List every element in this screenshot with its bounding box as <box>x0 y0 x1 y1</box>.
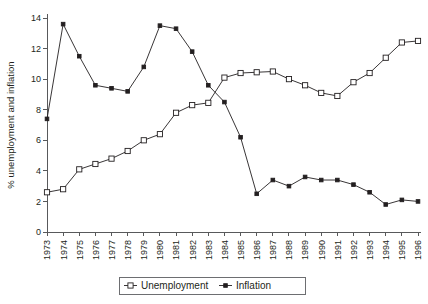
data-point <box>270 69 275 74</box>
data-point <box>319 178 323 182</box>
x-axis-tick-label: 1980 <box>155 240 165 260</box>
data-point <box>415 38 420 43</box>
data-point <box>207 83 211 87</box>
x-axis-tick-label: 1978 <box>123 240 133 260</box>
x-axis-tick-label: 1981 <box>171 240 181 260</box>
data-point <box>238 70 243 75</box>
data-point <box>351 80 356 85</box>
x-axis-tick-label: 1990 <box>317 240 327 260</box>
series-unemployment <box>44 38 420 195</box>
legend-marker-unemployment <box>128 283 133 288</box>
data-point <box>302 83 307 88</box>
x-axis-tick-label: 1991 <box>333 240 343 260</box>
data-point <box>222 75 227 80</box>
data-point <box>125 148 130 153</box>
x-axis-tick-label: 1989 <box>300 240 310 260</box>
data-point <box>61 22 65 26</box>
x-axis-tick-label: 1979 <box>139 240 149 260</box>
data-point <box>383 55 388 60</box>
data-point <box>336 178 340 182</box>
x-axis-tick-label: 1975 <box>75 240 85 260</box>
data-point <box>416 200 420 204</box>
data-point <box>94 83 98 87</box>
x-axis-tick-label: 1984 <box>220 240 230 260</box>
x-axis-tick-label: 1986 <box>252 240 262 260</box>
series-line-inflation <box>47 24 418 204</box>
x-axis-tick-label: 1987 <box>268 240 278 260</box>
data-point <box>303 175 307 179</box>
data-point <box>399 40 404 45</box>
data-point <box>335 93 340 98</box>
data-point <box>110 87 114 91</box>
data-point <box>142 65 146 69</box>
x-axis-tick-label: 1973 <box>42 240 52 260</box>
data-point <box>352 183 356 187</box>
line-chart: 02468101214% unemployment and inflation1… <box>0 0 428 304</box>
data-point <box>254 70 259 75</box>
y-axis-tick-label: 6 <box>36 135 41 145</box>
x-axis-tick-label: 1995 <box>397 240 407 260</box>
y-axis-tick-label: 14 <box>31 13 41 23</box>
y-axis-tick-label: 8 <box>36 105 41 115</box>
x-axis-tick-label: 1992 <box>349 240 359 260</box>
data-point <box>141 138 146 143</box>
data-point <box>158 24 162 28</box>
x-axis-tick-label: 1985 <box>236 240 246 260</box>
data-point <box>45 117 49 121</box>
y-axis-tick-label: 10 <box>31 74 41 84</box>
series-line-unemployment <box>47 41 418 192</box>
data-point <box>400 198 404 202</box>
x-axis-tick-label: 1982 <box>188 240 198 260</box>
y-axis-tick-label: 4 <box>36 166 41 176</box>
x-axis-tick-label: 1977 <box>107 240 117 260</box>
data-point <box>77 54 81 58</box>
data-point <box>157 132 162 137</box>
x-axis-tick-label: 1988 <box>284 240 294 260</box>
x-axis-tick-label: 1976 <box>91 240 101 260</box>
chart-figure: 02468101214% unemployment and inflation1… <box>0 0 428 304</box>
x-axis-tick-label: 1993 <box>365 240 375 260</box>
data-point <box>173 110 178 115</box>
chart-legend: UnemploymentInflation <box>119 277 305 294</box>
data-point <box>368 190 372 194</box>
data-point <box>93 161 98 166</box>
data-point <box>77 167 82 172</box>
x-axis-tick-label: 1994 <box>381 240 391 260</box>
legend-label-inflation: Inflation <box>236 280 271 291</box>
legend-label-unemployment: Unemployment <box>141 280 208 291</box>
legend-marker-inflation <box>224 284 228 288</box>
data-point <box>190 103 195 108</box>
data-point <box>287 184 291 188</box>
data-point <box>44 190 49 195</box>
y-axis-tick-label: 2 <box>36 197 41 207</box>
data-point <box>206 100 211 105</box>
data-point <box>223 100 227 104</box>
x-axis-tick-label: 1983 <box>204 240 214 260</box>
data-point <box>190 50 194 54</box>
data-point <box>61 187 66 192</box>
data-point <box>109 156 114 161</box>
x-axis-tick-label: 1974 <box>59 240 69 260</box>
data-point <box>271 178 275 182</box>
data-point <box>367 70 372 75</box>
data-point <box>255 192 259 196</box>
x-axis-tick-label: 1996 <box>413 240 423 260</box>
data-point <box>126 90 130 94</box>
y-axis-title: % unemployment and inflation <box>5 61 16 188</box>
data-point <box>174 27 178 31</box>
series-inflation <box>45 22 420 206</box>
data-point <box>384 203 388 207</box>
data-point <box>319 90 324 95</box>
data-point <box>286 77 291 82</box>
y-axis-tick-label: 0 <box>36 227 41 237</box>
y-axis-tick-label: 12 <box>31 44 41 54</box>
data-point <box>239 135 243 139</box>
